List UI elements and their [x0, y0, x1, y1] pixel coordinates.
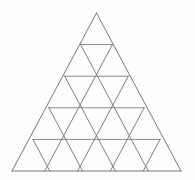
- right-leaning-grid-lines: [33, 13, 181, 171]
- horizontal-grid-lines: [12, 45, 181, 171]
- left-leaning-grid-lines: [12, 13, 160, 171]
- figure-container: [0, 0, 195, 180]
- triangle-right-edge: [97, 13, 182, 171]
- right-leaning-line-3: [65, 76, 116, 171]
- right-leaning-line-5: [33, 139, 50, 171]
- triangle-left-edge: [12, 13, 97, 171]
- left-leaning-line-3: [78, 76, 129, 171]
- triangular-grid-svg: [0, 0, 195, 180]
